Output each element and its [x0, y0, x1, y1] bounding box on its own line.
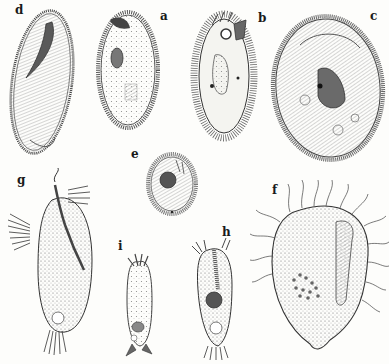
- illustration-plate: d a b c e g f h i: [0, 0, 389, 364]
- figure-g: [8, 168, 92, 355]
- figure-i: [126, 254, 152, 356]
- figure-label-f: f: [272, 184, 277, 196]
- figure-label-h: h: [222, 226, 231, 238]
- figure-d: [2, 7, 81, 158]
- figure-label-i: i: [118, 240, 123, 252]
- figure-c: [267, 11, 389, 164]
- figure-label-a: a: [160, 10, 168, 22]
- figure-e: [148, 154, 196, 214]
- figure-h: [192, 238, 232, 360]
- ciliate-illustrations: [0, 0, 389, 364]
- figure-b: [194, 12, 254, 138]
- figure-label-g: g: [17, 174, 25, 186]
- figure-label-c: c: [370, 10, 377, 22]
- figure-f: [250, 180, 389, 349]
- figure-a: [98, 12, 158, 128]
- figure-label-d: d: [15, 4, 23, 16]
- figure-label-b: b: [258, 12, 266, 24]
- figure-label-e: e: [131, 148, 139, 160]
